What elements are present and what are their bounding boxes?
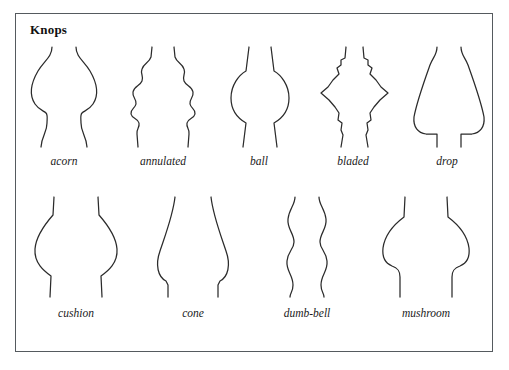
knops-row-1: acorn annulated [15,43,493,167]
knop-item-dumb-bell: dumb-bell [249,193,365,319]
annulated-left-profile [131,47,152,147]
dumb-bell-shape [249,193,365,303]
acorn-right-profile [76,47,97,147]
knop-item-cushion: cushion [15,193,137,319]
mushroom-shape [365,193,487,303]
bladed-right-profile [363,47,388,147]
annulated-right-profile [174,47,195,147]
knop-label-cushion: cushion [58,307,94,319]
drop-right-profile [461,47,484,147]
ball-shape [213,43,305,153]
ball-right-profile [271,47,289,147]
knop-label-dumb-bell: dumb-bell [284,307,331,319]
knop-label-ball: ball [250,155,268,167]
knop-item-bladed: bladed [305,43,401,167]
ball-left-profile [231,47,249,147]
acorn-left-profile [31,47,52,147]
knop-label-mushroom: mushroom [402,307,450,319]
cushion-shape [15,193,137,303]
knop-item-annulated: annulated [113,43,213,167]
bladed-left-profile [321,47,346,147]
drop-left-profile [414,47,437,147]
annulated-shape [113,43,213,153]
dumb-bell-left-profile [287,197,295,297]
cone-right-profile [211,197,228,297]
knop-label-annulated: annulated [140,155,186,167]
drop-shape [401,43,493,153]
knop-label-cone: cone [182,307,204,319]
knops-row-2: cushion cone [15,193,493,319]
dumb-bell-right-profile [319,197,327,297]
knops-grid: acorn annulated [15,13,493,352]
knop-item-ball: ball [213,43,305,167]
knop-label-bladed: bladed [337,155,368,167]
figure-page: Knops acorn [0,0,509,370]
bladed-shape [305,43,401,153]
cushion-left-profile [35,197,54,297]
knop-item-mushroom: mushroom [365,193,487,319]
cone-left-profile [158,197,175,297]
cushion-right-profile [98,197,117,297]
mushroom-left-profile [383,197,405,297]
acorn-shape [15,43,113,153]
knop-item-drop: drop [401,43,493,167]
knop-item-acorn: acorn [15,43,113,167]
knop-item-cone: cone [137,193,249,319]
cone-shape [137,193,249,303]
knop-label-acorn: acorn [51,155,78,167]
knop-label-drop: drop [436,155,457,167]
mushroom-right-profile [447,197,469,297]
